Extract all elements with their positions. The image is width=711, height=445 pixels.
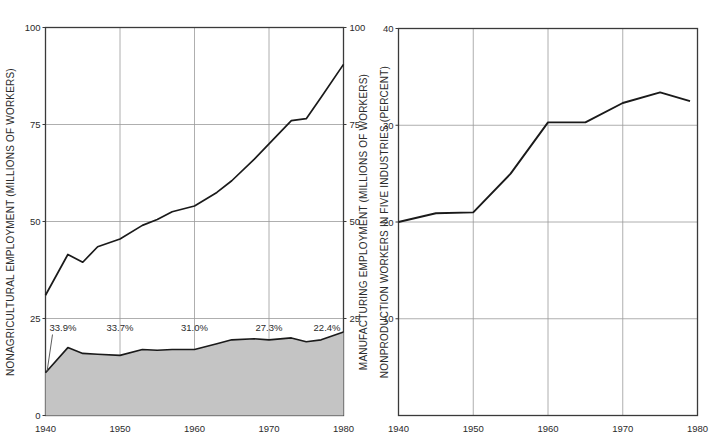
percentage-label: 33.9%: [50, 322, 77, 333]
y-tick-label: 100: [25, 22, 41, 33]
percentage-label: 31.0%: [181, 322, 208, 333]
left-secondary-y-axis-title: MANUFACTURING EMPLOYMENT (MILLIONS OF WO…: [358, 74, 369, 370]
x-tick-label: 1960: [184, 423, 205, 434]
y-tick-label: 50: [30, 216, 41, 227]
right-y-axis-title: NONPRODUCTION WORKERS IN FIVE INDUSTRIES…: [379, 66, 390, 378]
x-tick-label: 1970: [258, 423, 279, 434]
x-tick-label: 1950: [463, 423, 484, 434]
x-tick-label: 1980: [333, 423, 354, 434]
two-panel-employment-chart: 33.9%33.7%31.0%27.3%22.4% 19401950196019…: [0, 0, 711, 445]
secondary-y-tick-label: 100: [350, 22, 366, 33]
x-tick-label: 1980: [687, 423, 708, 434]
y-tick-label: 0: [35, 410, 40, 421]
y-tick-label: 25: [30, 313, 41, 324]
x-tick-label: 1950: [109, 423, 130, 434]
x-tick-label: 1940: [35, 423, 56, 434]
percentage-label: 22.4%: [314, 322, 341, 333]
x-tick-label: 1970: [612, 423, 633, 434]
percentage-label: 33.7%: [107, 322, 134, 333]
y-tick-label: 40: [383, 23, 394, 34]
x-tick-label: 1960: [537, 423, 558, 434]
percentage-label: 27.3%: [256, 322, 283, 333]
x-tick-label: 1940: [388, 423, 409, 434]
left-y-axis-title: NONAGRICULTURAL EMPLOYMENT (MILLIONS OF …: [5, 68, 16, 376]
y-tick-label: 75: [30, 119, 41, 130]
